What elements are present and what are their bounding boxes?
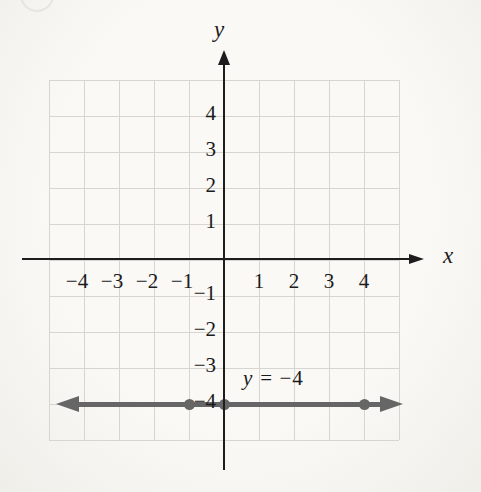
- y-tick-label: −2: [156, 317, 216, 342]
- y-tick-label: −3: [156, 353, 216, 378]
- y-axis: [223, 62, 225, 470]
- coordinate-plane-figure: y x −4−3−2−11234 4321−1−2−3−4 y= −4: [0, 0, 481, 492]
- y-axis-arrowhead: [218, 50, 230, 65]
- x-axis-label: x: [443, 243, 453, 269]
- x-tick-label: 4: [359, 269, 370, 294]
- plotted-line-right-arrowhead: [380, 396, 403, 412]
- x-tick-label: 1: [254, 269, 265, 294]
- y-tick-label: −1: [156, 281, 216, 306]
- x-tick-label: 2: [289, 269, 300, 294]
- y-tick-label: −4: [156, 389, 216, 414]
- x-tick-label: −4: [66, 269, 88, 294]
- y-axis-label: y: [214, 17, 224, 43]
- plotted-line-left-arrowhead: [56, 396, 79, 412]
- x-tick-label: −2: [136, 269, 158, 294]
- equation-value: = −4: [260, 366, 303, 390]
- x-axis: [22, 258, 411, 260]
- grid-line-vertical: [399, 80, 400, 440]
- line-equation-label: y= −4: [243, 366, 304, 391]
- y-tick-label: 1: [156, 209, 216, 234]
- x-axis-arrowhead: [409, 254, 424, 264]
- x-tick-label: 3: [324, 269, 335, 294]
- x-tick-label: −3: [101, 269, 123, 294]
- y-tick-label: 2: [156, 173, 216, 198]
- y-tick-label: 4: [156, 101, 216, 126]
- y-tick-label: 3: [156, 137, 216, 162]
- equation-variable: y: [243, 366, 253, 390]
- plotted-point: [359, 399, 370, 410]
- scan-artifact: [20, 0, 54, 12]
